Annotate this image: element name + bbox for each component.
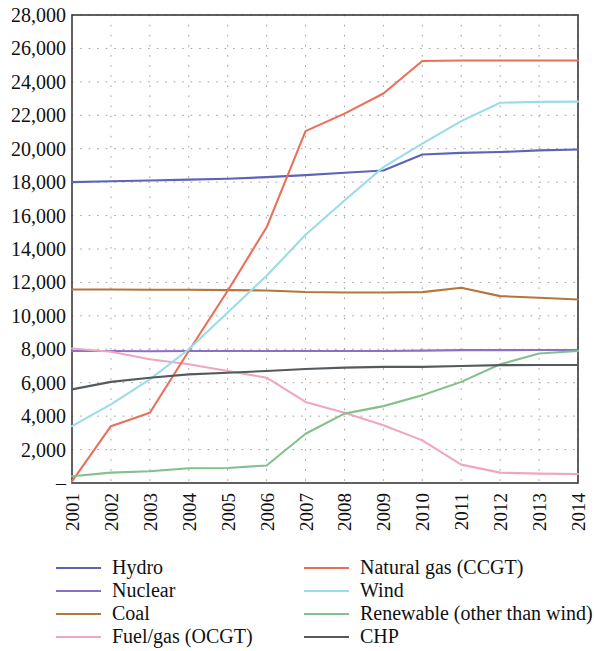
legend-item-natural-gas-ccgt[interactable]: Natural gas (CCGT) (304, 556, 594, 579)
legend-swatch-coal (56, 613, 101, 615)
y-tick-label: 20,000 (11, 138, 66, 160)
x-tick-label: 2007 (296, 493, 317, 531)
y-tick-label: 12,000 (11, 271, 66, 293)
y-tick-label: 10,000 (11, 305, 66, 327)
data-series-layer (72, 60, 578, 481)
chart-legend: HydroNuclearCoalFuel/gas (OCGT) Natural … (56, 556, 586, 651)
legend-item-coal[interactable]: Coal (56, 602, 306, 625)
series-line-hydro (72, 150, 578, 183)
x-tick-label: 2009 (373, 493, 394, 531)
legend-swatch-renewable-other-than-wind (304, 613, 349, 615)
series-line-nuclear (72, 350, 578, 351)
x-tick-label: 2002 (101, 493, 122, 531)
x-tick-label: 2012 (490, 493, 511, 531)
x-tick-label: 2014 (568, 493, 586, 532)
legend-column-right: Natural gas (CCGT)WindRenewable (other t… (304, 556, 594, 648)
legend-label-coal: Coal (112, 602, 150, 625)
y-tick-label: 8,000 (21, 338, 66, 360)
x-tick-label: 2010 (412, 493, 433, 531)
legend-swatch-natural-gas-ccgt (304, 567, 349, 569)
legend-item-chp[interactable]: CHP (304, 625, 594, 648)
y-tick-label: – (55, 472, 67, 494)
legend-item-renewable-other-than-wind[interactable]: Renewable (other than wind) (304, 602, 594, 625)
legend-label-renewable-other-than-wind: Renewable (other than wind) (360, 602, 593, 625)
y-axis-tick-labels: –2,0004,0006,0008,00010,00012,00014,0001… (11, 4, 67, 494)
x-tick-label: 2003 (140, 493, 161, 531)
legend-label-chp: CHP (360, 625, 399, 648)
series-line-chp (72, 365, 578, 389)
x-tick-label: 2006 (257, 493, 278, 531)
x-tick-label: 2004 (179, 493, 200, 532)
legend-swatch-nuclear (56, 590, 101, 592)
legend-label-natural-gas-ccgt: Natural gas (CCGT) (360, 556, 523, 579)
series-line-fuel-gas-ocgt (72, 348, 578, 474)
y-tick-label: 14,000 (11, 238, 66, 260)
legend-column-left: HydroNuclearCoalFuel/gas (OCGT) (56, 556, 306, 648)
x-tick-label: 2005 (218, 493, 239, 531)
y-tick-label: 24,000 (11, 71, 66, 93)
legend-label-nuclear: Nuclear (112, 579, 175, 602)
x-tick-label: 2008 (334, 493, 355, 531)
series-line-natural-gas-ccgt (72, 60, 578, 481)
y-tick-label: 16,000 (11, 205, 66, 227)
legend-swatch-chp (304, 636, 349, 638)
legend-label-wind: Wind (360, 579, 404, 602)
legend-item-hydro[interactable]: Hydro (56, 556, 306, 579)
y-tick-label: 2,000 (21, 439, 66, 461)
legend-item-wind[interactable]: Wind (304, 579, 594, 602)
legend-item-fuel-gas-ocgt[interactable]: Fuel/gas (OCGT) (56, 625, 306, 648)
series-line-coal (72, 288, 578, 300)
legend-swatch-hydro (56, 567, 101, 569)
y-tick-label: 18,000 (11, 171, 66, 193)
y-tick-label: 26,000 (11, 37, 66, 59)
y-tick-label: 28,000 (11, 4, 66, 26)
x-tick-label: 2013 (529, 493, 550, 531)
legend-label-hydro: Hydro (112, 556, 163, 579)
x-axis-tick-labels: 2001200220032004200520062007200820092010… (62, 493, 586, 532)
y-tick-label: 6,000 (21, 372, 66, 394)
legend-label-fuel-gas-ocgt: Fuel/gas (OCGT) (112, 625, 253, 648)
legend-swatch-wind (304, 590, 349, 592)
y-tick-label: 22,000 (11, 104, 66, 126)
legend-item-nuclear[interactable]: Nuclear (56, 579, 306, 602)
x-tick-label: 2001 (62, 493, 83, 531)
x-tick-label: 2011 (451, 493, 472, 530)
legend-swatch-fuel-gas-ocgt (56, 636, 101, 638)
y-tick-label: 4,000 (21, 405, 66, 427)
